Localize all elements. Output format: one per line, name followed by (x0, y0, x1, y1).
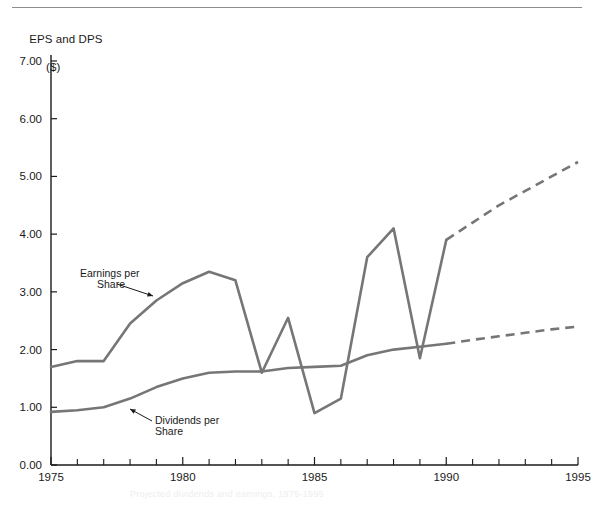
series-line-actual-1 (51, 344, 446, 412)
y-axis-tick-label: 5.00 (20, 170, 42, 182)
eps-annotation-label-line2: Share (97, 278, 125, 290)
y-axis-tick-label: 0.00 (20, 459, 42, 471)
faint-bottom-note: Projected dividends and earnings, 1975-1… (130, 489, 470, 499)
y-axis-tick-label: 6.00 (20, 113, 42, 125)
x-axis-tick-label: 1995 (565, 471, 591, 483)
chart-plot-area: 0.001.002.003.004.005.006.007.00 1975198… (0, 0, 594, 505)
y-axis-tick-label: 3.00 (20, 286, 42, 298)
annotation-group: Earnings perShareDividends perShare (80, 267, 220, 437)
eps-annotation-arrowhead (147, 292, 153, 297)
chart-figure: EPS and DPS ($) 0.001.002.003.004.005.00… (0, 0, 594, 505)
y-axis: 0.001.002.003.004.005.006.007.00 (20, 55, 57, 471)
y-axis-tick-label: 4.00 (20, 228, 42, 240)
x-axis: 19751980198519901995 (38, 457, 591, 483)
data-series-group (51, 162, 578, 413)
y-axis-tick-label: 1.00 (20, 401, 42, 413)
x-axis-tick-label: 1975 (38, 471, 64, 483)
y-axis-tick-label: 7.00 (20, 55, 42, 67)
series-line-actual-0 (51, 228, 446, 413)
x-axis-tick-label: 1985 (302, 471, 328, 483)
series-line-forecast-0 (446, 162, 578, 240)
x-axis-tick-label: 1990 (433, 471, 459, 483)
x-axis-tick-label: 1980 (170, 471, 196, 483)
series-line-forecast-1 (446, 327, 578, 344)
dps-annotation-label-line2: Share (155, 425, 183, 437)
y-axis-tick-label: 2.00 (20, 344, 42, 356)
eps-annotation-leader-line (117, 284, 153, 296)
